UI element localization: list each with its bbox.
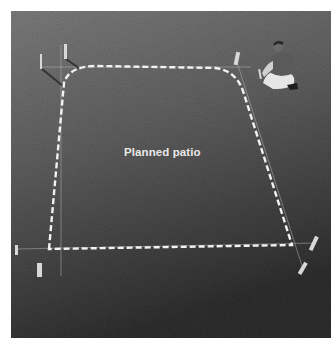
stake-bottom-left-1 xyxy=(15,245,18,255)
planned-patio-label: Planned patio xyxy=(124,146,201,158)
lawn-photo xyxy=(11,11,331,338)
stake-bottom-left-2 xyxy=(37,263,42,277)
stake-top-left-1 xyxy=(40,54,42,69)
stake-top-left-2 xyxy=(64,44,67,59)
lawn-scene xyxy=(11,11,331,338)
